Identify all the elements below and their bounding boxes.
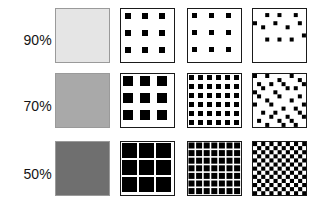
swatch-fine-am-halftone-70 <box>187 73 242 128</box>
swatch-fine-am-halftone-90 <box>187 8 242 63</box>
swatch-solid-tone-70 <box>55 73 110 128</box>
swatch-coarse-am-halftone-50 <box>120 141 175 196</box>
swatch-solid-tone-50 <box>55 141 110 196</box>
swatch-stochastic-screen-70 <box>252 73 307 128</box>
swatch-coarse-am-halftone-70 <box>120 73 175 128</box>
swatch-stochastic-screen-50 <box>252 141 307 196</box>
swatch-fine-am-halftone-50 <box>187 141 242 196</box>
row-label-90: 90% <box>0 33 52 47</box>
row-label-70: 70% <box>0 99 52 113</box>
swatch-stochastic-screen-90 <box>252 8 307 63</box>
halftone-comparison-figure: 90%70%50% <box>0 0 318 209</box>
swatch-solid-tone-90 <box>55 8 110 63</box>
swatch-coarse-am-halftone-90 <box>120 8 175 63</box>
row-label-50: 50% <box>0 167 52 181</box>
